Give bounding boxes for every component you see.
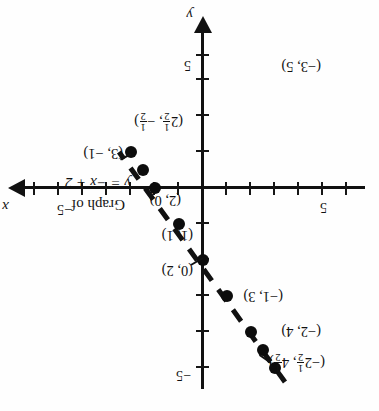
caption-equation: y = −x + 2 bbox=[13, 172, 183, 194]
fraction-one-half-d: 12 bbox=[274, 351, 281, 373]
caption-line-1: Graph of bbox=[13, 193, 183, 215]
fraction-denominator: 2 bbox=[140, 110, 147, 121]
graph-figure: x y −5 5 5 −5 bbox=[0, 0, 379, 411]
point-label-2h--h-open: (2 bbox=[171, 114, 183, 130]
point-label--2-4: (−2, 4) bbox=[281, 325, 321, 340]
fraction-one-half-c: 12 bbox=[297, 351, 304, 373]
fraction-numerator: 1 bbox=[163, 122, 170, 132]
fraction-denominator: 2 bbox=[274, 351, 281, 362]
point-dot--1-3 bbox=[221, 290, 233, 302]
point-label-1-1: (1, 1) bbox=[162, 229, 193, 244]
fraction-numerator: 1 bbox=[297, 363, 304, 373]
rotated-figure-content: x y −5 5 5 −5 bbox=[0, 0, 379, 411]
fraction-numerator: 1 bbox=[274, 363, 281, 373]
point-label--2h-4h-open: (−2 bbox=[305, 355, 325, 371]
fraction-denominator: 2 bbox=[163, 110, 170, 121]
fraction-numerator: 1 bbox=[140, 122, 147, 132]
point-label--1-3: (−1, 3) bbox=[243, 290, 283, 305]
fraction-one-half-a: 12 bbox=[163, 110, 170, 132]
point-label-3--1: (3, −1) bbox=[83, 147, 123, 162]
fraction-denominator: 2 bbox=[297, 351, 304, 362]
figure-caption: Graph of y = −x + 2 bbox=[13, 172, 183, 216]
point-label-2h--h-mid: , − bbox=[147, 114, 162, 130]
point-label--2h-4h-mid: , 4 bbox=[282, 355, 297, 371]
point-dot--2-4 bbox=[245, 326, 257, 338]
point-label-0-2: (0, 2) bbox=[162, 264, 193, 279]
point-label-2h--h-close: ) bbox=[134, 114, 139, 130]
fraction-one-half-b: 12 bbox=[140, 110, 147, 132]
point-label-2h--h: (212, −12) bbox=[134, 110, 183, 132]
point-label--3-5: (−3, 5) bbox=[281, 60, 321, 75]
point-label--2h-4h: (−212, 412) bbox=[269, 351, 325, 373]
